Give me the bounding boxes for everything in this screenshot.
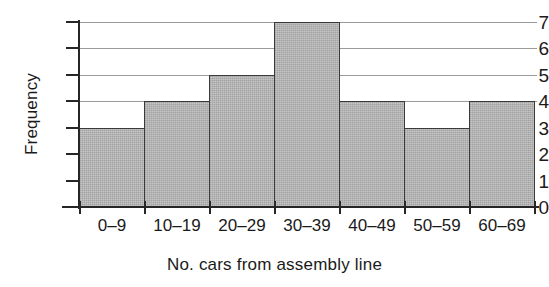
table-row [469,101,535,207]
x-tick-mark-2 [209,201,211,214]
y-axis-title: Frequency [22,19,42,209]
x-tick-mark-3 [274,201,276,214]
x-tick-label-3: 30–39 [274,217,340,234]
x-tick-mark-6 [469,201,471,214]
x-tick-mark-4 [339,201,341,214]
x-tick-label-5: 50–59 [404,217,470,234]
table-row [144,101,210,207]
x-tick-mark-1 [144,201,146,214]
y-axis-line [78,20,80,209]
x-tick-label-1: 10–19 [144,217,210,234]
histogram-chart: Frequency 7 6 5 4 3 2 1 0 [0,0,549,287]
x-axis-title: No. cars from assembly line [0,255,549,275]
table-row [339,101,405,207]
x-tick-label-4: 40–49 [339,217,405,234]
bars-group [79,22,535,207]
x-tick-label-2: 20–29 [209,217,275,234]
table-row [79,128,145,207]
x-tick-mark-7 [534,201,536,214]
x-axis-line [62,206,539,208]
plot-area [79,22,537,207]
x-tick-mark-0 [79,201,81,214]
x-tick-mark-5 [404,201,406,214]
table-row [404,128,470,207]
x-tick-label-6: 60–69 [469,217,535,234]
x-tick-label-0: 0–9 [79,217,145,234]
table-row [274,22,340,207]
table-row [209,75,275,207]
